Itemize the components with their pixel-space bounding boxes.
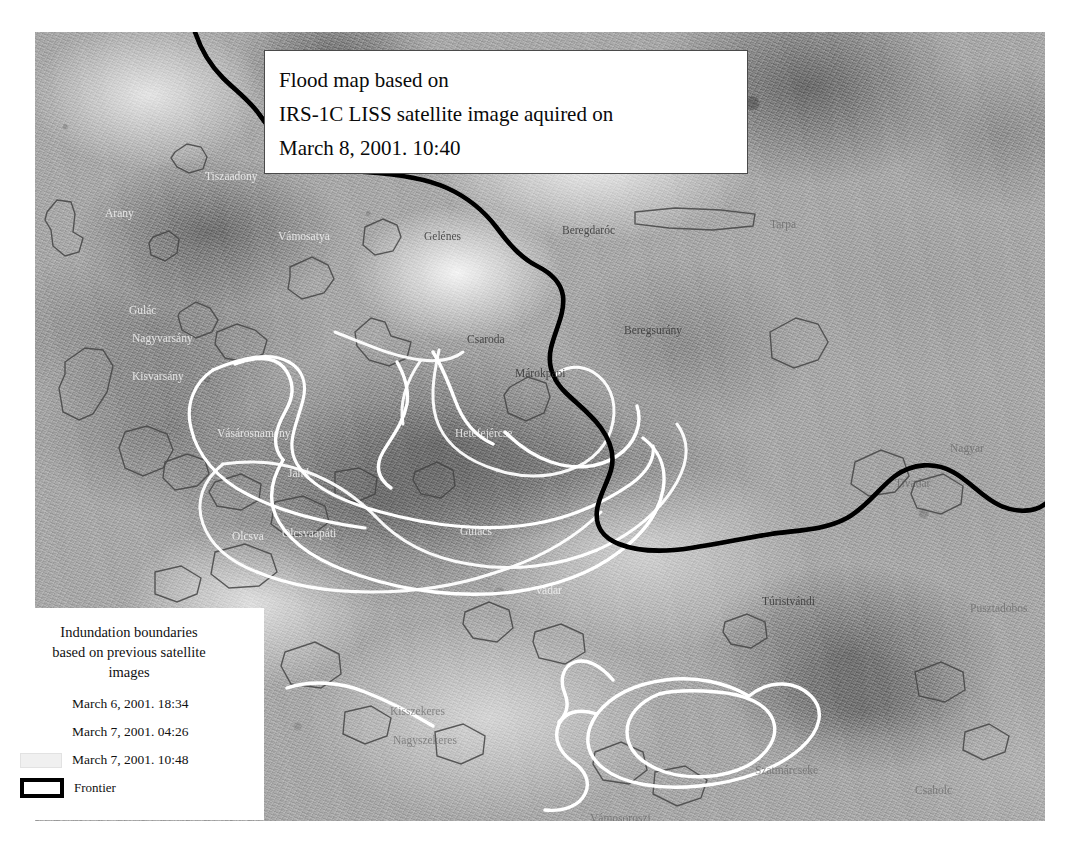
title-line-2: IRS-1C LISS satellite image aquired on [279,97,747,131]
legend-heading-line-3: images [18,662,240,682]
settlement-label: Kisszekeres [390,705,445,717]
settlement-label: Tivadar [895,477,931,489]
settlement-label: Olcsvaapáti [282,527,336,540]
flood-map-page: TiszaadonyAranyVámosatyaGelénesBeregdaró… [0,0,1076,846]
settlement-label: Gelénes [424,230,462,242]
title-line-1: Flood map based on [279,63,747,97]
settlement-label: Tiszaadony [205,170,258,183]
settlement-label: Nagyszekeres [393,734,457,747]
settlement-label: Pusztadobos [970,602,1028,614]
settlement-label: Csaholc [915,784,952,796]
settlement-label: Vámosatya [278,230,330,243]
legend-swatch-white-line-1 [20,697,62,712]
settlement-label: Beregdaróc [562,224,615,237]
legend-item-march6: March 6, 2001. 18:34 [4,690,254,718]
legend-swatch-frontier-outline [20,778,64,798]
settlement-label: Arany [105,207,134,220]
settlement-label: Nagyar [950,442,984,455]
settlement-label: Vámosoroszi [590,812,651,821]
settlement-label: Gulács [460,525,492,537]
settlement-label: Hetefejércse [455,427,512,440]
settlement-label: Jánd [288,467,309,479]
settlement-label: Márokpapi [515,367,565,380]
legend-label-frontier: Frontier [74,780,116,796]
settlement-label: Vadar [535,584,562,596]
legend-heading: Indundation boundaries based on previous… [18,622,240,682]
legend-label-march7-1048: March 7, 2001. 10:48 [72,752,189,768]
map-legend-box: Indundation boundaries based on previous… [0,608,264,820]
inundation-boundary-march6 [189,356,653,528]
settlement-label: Olcsva [232,530,264,542]
inundation-boundary-east-loop [287,661,819,810]
map-title-box: Flood map based on IRS-1C LISS satellite… [264,50,748,174]
legend-item-frontier: Frontier [4,774,254,802]
legend-item-march7-1048: March 7, 2001. 10:48 [4,746,254,774]
legend-heading-line-2: based on previous satellite [18,642,240,662]
legend-label-march6: March 6, 2001. 18:34 [72,696,189,712]
legend-label-march7-0426: March 7, 2001. 04:26 [72,724,189,740]
legend-swatch-faint-box [20,753,62,768]
settlement-label: Kisvarsány [132,370,184,383]
title-line-3: March 8, 2001. 10:40 [279,131,747,165]
settlement-label: Túristvándi [762,595,815,607]
legend-item-march7-0426: March 7, 2001. 04:26 [4,718,254,746]
settlement-label: Beregsurány [624,324,682,337]
settlement-label: Nagyvarsány [132,332,193,345]
settlement-label: Szatmárcseke [755,764,818,776]
legend-heading-line-1: Indundation boundaries [18,622,240,642]
settlement-label: Vásárosnamény [217,427,291,440]
settlement-label: Gulác [129,304,156,316]
settlement-label: Csaroda [467,333,505,345]
settlement-label: Tarpa [770,218,796,231]
legend-swatch-white-line-2 [20,725,62,740]
